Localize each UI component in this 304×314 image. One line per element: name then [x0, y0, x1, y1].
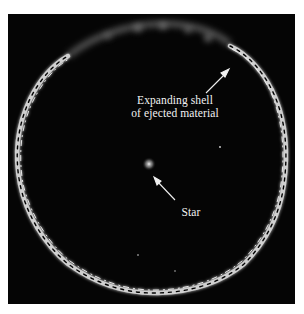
astronomy-image: Expanding shell of ejected material Star [8, 14, 295, 304]
annotation-arrows [154, 69, 229, 200]
shell-label-line-1: Expanding shell [120, 94, 230, 107]
star-label-line-1: Star [176, 206, 206, 219]
shell-label-line-2: of ejected material [120, 107, 230, 120]
central-star [142, 157, 156, 171]
star-label: Star [176, 206, 206, 219]
nebula-scene [8, 14, 295, 304]
shell-label: Expanding shell of ejected material [120, 94, 230, 120]
